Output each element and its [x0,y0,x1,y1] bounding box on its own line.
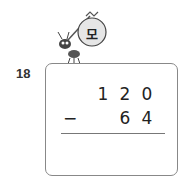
answer-line [61,133,165,134]
minuend-hundreds-digit: 1 [95,84,111,104]
answer-box: 1 2 0 − 6 4 [45,63,178,176]
minuend-ones-digit: 0 [139,84,155,104]
subtrahend-tens-digit: 6 [117,108,133,128]
bag-label-text: 모 [84,24,100,43]
subtrahend-ones-digit: 4 [139,108,155,128]
minuend-tens-digit: 2 [117,84,133,104]
minus-operator: − [62,108,78,128]
ant-carrying-bag-illustration [52,4,112,64]
problem-number: 18 [16,66,30,81]
